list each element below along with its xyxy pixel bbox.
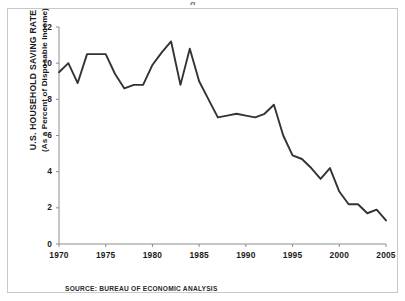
x-tick-label: 1995 <box>273 250 313 260</box>
figure-frame: U.S. HOUSEHOLD SAVING RATE (As a Percent… <box>7 8 398 293</box>
y-tick-label: 12 <box>30 22 52 32</box>
y-tick-label: 0 <box>30 239 52 249</box>
y-tick-label: 10 <box>30 58 52 68</box>
x-tick-label: 1985 <box>179 250 219 260</box>
y-tick-label: 2 <box>30 202 52 212</box>
x-tick-label: 1975 <box>86 250 126 260</box>
y-tick-label: 6 <box>30 130 52 140</box>
data-series-line <box>59 41 386 220</box>
y-tick-label: 4 <box>30 166 52 176</box>
x-tick-label: 2005 <box>366 250 405 260</box>
x-tick-label: 1970 <box>39 250 79 260</box>
x-tick-label: 1990 <box>226 250 266 260</box>
figure-container: g U.S. HOUSEHOLD SAVING RATE (As a Perce… <box>0 0 405 301</box>
y-tick-label: 8 <box>30 94 52 104</box>
source-note: SOURCE: BUREAU OF ECONOMIC ANALYSIS <box>65 285 218 292</box>
clipped-title-fragment: g <box>190 0 204 5</box>
x-tick-label: 1980 <box>132 250 172 260</box>
x-tick-label: 2000 <box>319 250 359 260</box>
